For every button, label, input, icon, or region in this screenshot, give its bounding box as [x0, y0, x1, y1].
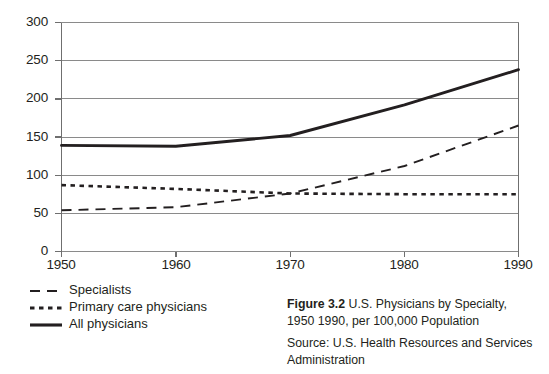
legend-label-specialists: Specialists	[69, 283, 131, 297]
figure-caption: Figure 3.2 U.S. Physicians by Specialty,…	[287, 296, 537, 369]
legend-item-specialists: Specialists	[30, 282, 260, 299]
y-tick-label-50: 50	[6, 206, 48, 220]
dashed-line-swatch-icon	[30, 285, 62, 297]
legend-item-primary-care: Primary care physicians	[30, 299, 260, 316]
dotted-line-swatch-icon	[30, 302, 62, 314]
series-line-primary-care	[62, 185, 519, 194]
x-tick-label-1970: 1970	[262, 258, 318, 272]
y-tick-label-250: 250	[6, 53, 48, 67]
x-tick-label-1960: 1960	[148, 258, 204, 272]
figure-number: Figure 3.2	[287, 297, 345, 311]
x-tick-label-1990: 1990	[490, 258, 546, 272]
caption-source-line: Source: U.S. Health Resources and Servic…	[287, 335, 537, 369]
y-tick-label-200: 200	[6, 91, 48, 105]
y-tick-marks	[55, 23, 61, 252]
line-chart-svg	[0, 0, 549, 270]
y-tick-label-0: 0	[6, 244, 48, 258]
y-tick-label-100: 100	[6, 168, 48, 182]
legend-label-all-physicians: All physicians	[69, 317, 148, 331]
legend-label-primary-care: Primary care physicians	[69, 300, 207, 314]
y-tick-label-300: 300	[6, 15, 48, 29]
gridlines	[61, 23, 519, 252]
chart-legend: Specialists Primary care physicians All …	[30, 282, 260, 333]
chart-plot-area: 300 250 200 150 100 50 0 1950 1960 1970 …	[0, 0, 549, 270]
caption-title-line: Figure 3.2 U.S. Physicians by Specialty,…	[287, 296, 537, 330]
series-line-all-physicians	[62, 70, 519, 147]
y-tick-label-150: 150	[6, 130, 48, 144]
figure-container: 300 250 200 150 100 50 0 1950 1960 1970 …	[0, 0, 549, 374]
x-tick-label-1980: 1980	[376, 258, 432, 272]
solid-line-swatch-icon	[30, 319, 62, 331]
legend-item-all-physicians: All physicians	[30, 316, 260, 333]
x-tick-label-1950: 1950	[33, 258, 89, 272]
series-line-specialists	[62, 126, 519, 211]
